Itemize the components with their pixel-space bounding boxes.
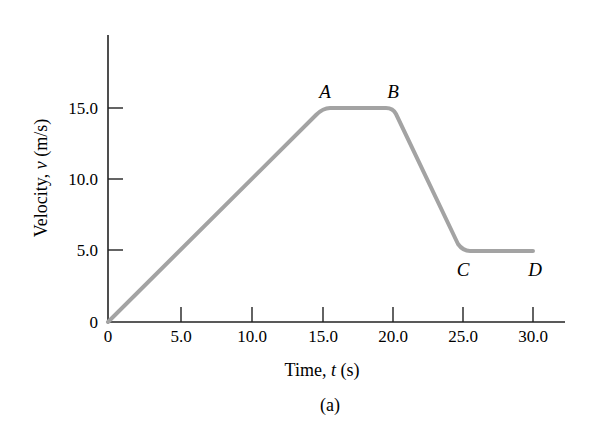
point-label-c: C	[457, 259, 470, 280]
x-tick-label: 10.0	[237, 327, 267, 346]
y-ticks	[108, 108, 123, 250]
velocity-time-chart: 15.0 10.0 5.0 0 0 5.0 10.0 15.0 20.0 25.…	[0, 0, 599, 433]
x-ticks	[181, 307, 533, 322]
x-tick-label: 20.0	[378, 327, 408, 346]
y-axis-title: Velocity, v (m/s)	[31, 119, 52, 237]
y-origin-label: 0	[90, 313, 99, 332]
point-label-a: A	[317, 81, 331, 102]
x-tick-label: 15.0	[308, 327, 338, 346]
x-tick-label: 30.0	[518, 327, 548, 346]
figure-caption: (a)	[320, 395, 340, 416]
point-label-d: D	[527, 259, 542, 280]
x-tick-label: 25.0	[448, 327, 478, 346]
x-tick-label: 5.0	[170, 327, 191, 346]
point-label-b: B	[387, 81, 399, 102]
y-tick-label: 5.0	[77, 241, 98, 260]
x-axis-title: Time, t (s)	[285, 360, 360, 381]
x-origin-label: 0	[104, 327, 113, 346]
y-tick-label: 10.0	[68, 170, 98, 189]
velocity-curve	[108, 108, 533, 322]
y-tick-label: 15.0	[68, 99, 98, 118]
